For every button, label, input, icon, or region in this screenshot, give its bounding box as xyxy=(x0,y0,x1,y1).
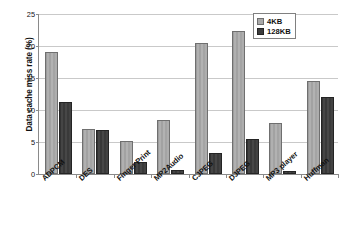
bar-group xyxy=(76,14,113,174)
legend-item-1: 128KB xyxy=(257,26,291,36)
y-tick-label: 5 xyxy=(31,138,35,147)
bar-0 xyxy=(232,31,245,174)
legend-swatch-4kb xyxy=(257,18,264,25)
legend: 4KB 128KB xyxy=(253,13,296,39)
legend-label-128kb: 128KB xyxy=(267,27,291,36)
x-tick-mark xyxy=(338,174,339,178)
y-tick-label: 20 xyxy=(27,42,35,51)
y-tick-label: 15 xyxy=(27,74,35,83)
bar-0 xyxy=(195,43,208,174)
bar-group xyxy=(151,14,188,174)
x-axis-category-labels: ADPCMDESFinger PrintMP2AudioCJPEGDJPEGMP… xyxy=(38,176,337,233)
legend-swatch-128kb xyxy=(257,28,264,35)
bar-1 xyxy=(283,171,296,174)
legend-label-4kb: 4KB xyxy=(267,17,282,26)
bar-0 xyxy=(45,52,58,174)
y-tick-label: 25 xyxy=(27,10,35,19)
y-tick-label: 0 xyxy=(31,170,35,179)
bar-group xyxy=(301,14,338,174)
bar-1 xyxy=(171,170,184,174)
bar-group xyxy=(39,14,76,174)
bar-1 xyxy=(96,130,109,174)
y-tick-mark xyxy=(36,174,39,175)
y-tick-label: 10 xyxy=(27,106,35,115)
data-cache-miss-rate-bar-chart: Data cache miss rate (%) 0510152025 ADPC… xyxy=(0,0,347,233)
legend-item-0: 4KB xyxy=(257,16,291,26)
bar-group xyxy=(189,14,226,174)
